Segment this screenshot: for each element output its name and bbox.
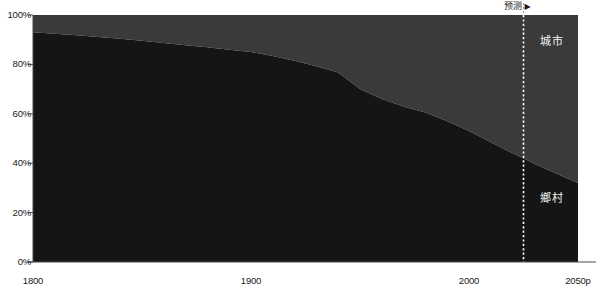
forecast-annotation: 预测▶: [504, 2, 531, 11]
y-axis-tick-label: 40%: [1, 158, 31, 168]
forecast-annotation-label: 预测: [504, 1, 522, 11]
x-axis-tick-label: 2000: [459, 276, 479, 286]
series-label-rural: 鄉村: [540, 193, 563, 204]
x-axis-label-group: 1800190020002050p: [0, 268, 603, 288]
y-axis-tick-label: 60%: [1, 109, 31, 119]
y-axis-tick-label: 20%: [1, 208, 31, 218]
series-label-urban: 城市: [540, 36, 563, 47]
x-axis-tick-label: 1900: [241, 276, 261, 286]
chart-plot-area: [0, 0, 603, 296]
y-axis-label-group: 0%20%40%60%80%100%: [0, 0, 31, 296]
y-axis-tick-label: 0%: [1, 257, 31, 267]
urbanization-area-chart: 0%20%40%60%80%100% 1800190020002050p 城市 …: [0, 0, 603, 296]
x-axis-tick-label: 1800: [23, 276, 43, 286]
x-axis-tick-label: 2050p: [565, 276, 590, 286]
y-axis-tick-label: 100%: [1, 10, 31, 20]
forecast-arrow-icon: ▶: [524, 2, 530, 11]
y-axis-tick-label: 80%: [1, 59, 31, 69]
